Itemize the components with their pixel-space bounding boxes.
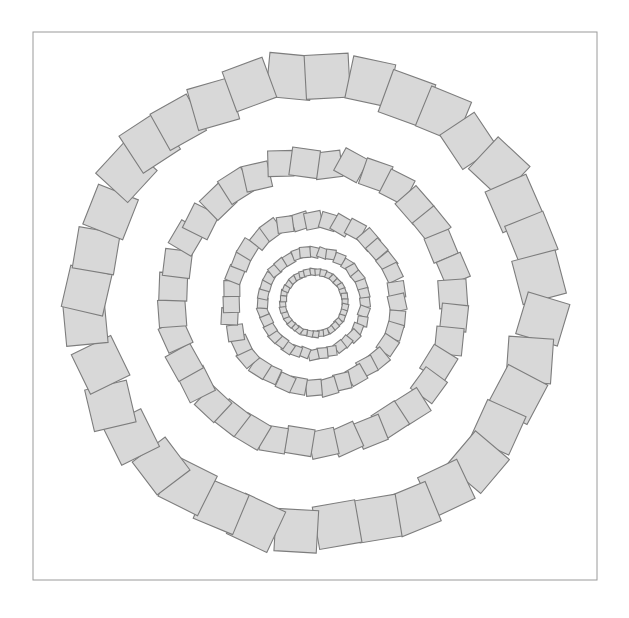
ring-square [299,247,310,258]
ring-square [226,324,244,342]
concentric-rings-figure [0,0,629,618]
ring-square [312,500,362,550]
ring-square [304,53,350,99]
ring-square [276,216,294,234]
ring-square [280,296,286,302]
figure-canvas [0,0,629,618]
ring-square [284,426,315,457]
ring-square [303,269,311,277]
ring-square [158,298,187,327]
ring-square [223,296,240,313]
ring-square [289,147,321,179]
ring-square [305,379,322,396]
